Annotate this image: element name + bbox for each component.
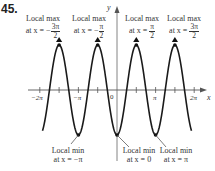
- tick-label-2pi: 2π: [190, 94, 197, 102]
- local-min-label-2: Local min at x = 0: [121, 146, 157, 164]
- tick-label-neg2pi: −2π: [31, 94, 43, 102]
- local-min-label-3: Local min at x = π: [158, 146, 194, 164]
- local-max-label-4: Local max at x = 3π2: [164, 14, 204, 40]
- local-max-label-1: Local max at x = −3π2: [22, 14, 64, 40]
- local-max-label-2: Local max at x = −π2: [68, 14, 110, 40]
- y-axis-label: y: [107, 3, 111, 12]
- tick-label-negpi: −π: [73, 94, 81, 102]
- x-axis-label: x: [207, 93, 211, 102]
- tick-label-pi: π: [153, 94, 157, 102]
- tick-label-zero: 0: [110, 93, 114, 101]
- local-min-label-1: Local min at x = −π: [50, 146, 86, 164]
- problem-number: 45.: [1, 2, 18, 16]
- local-max-label-3: Local max at x = π2: [124, 14, 160, 40]
- x-axis-arrow-icon: [200, 88, 207, 93]
- y-axis-arrow-icon: [115, 6, 120, 13]
